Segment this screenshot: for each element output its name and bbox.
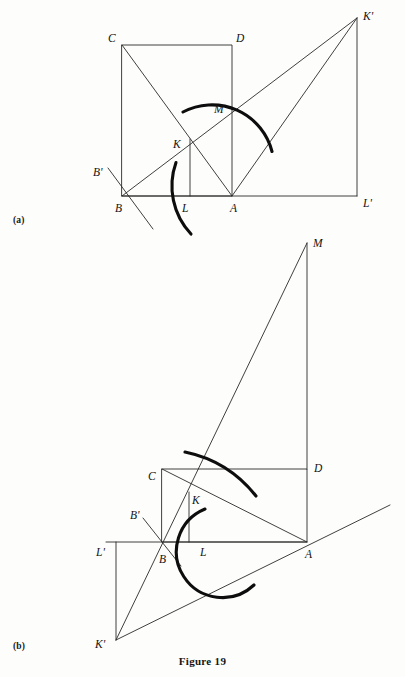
geometry-figure-svg: C D B A K L M B' K' L' (0, 0, 405, 677)
panel-b-label-lprime: L' (95, 546, 105, 558)
panel-b-label-kprime: K' (94, 638, 106, 650)
panel-a-label-m: M (213, 103, 225, 115)
panel-b-line-kprime-a-extended (116, 505, 390, 640)
panel-a-label-c: C (108, 32, 116, 44)
panel-a-label-l: L (181, 202, 188, 214)
panel-a-group: C D B A K L M B' K' L' (93, 10, 374, 234)
panel-a-label-b: B (115, 202, 122, 214)
panel-a-label-d: D (235, 32, 245, 44)
panel-a-line-a-kprime (232, 18, 357, 196)
panel-a-label-kprime: K' (362, 10, 374, 22)
panel-b-label-k: K (191, 494, 201, 506)
panel-b-label-m: M (312, 237, 324, 249)
panel-b-label-l: L (199, 546, 206, 558)
panel-a-diagonal-c-a (122, 45, 232, 196)
panel-b-label-a: A (304, 548, 313, 560)
panel-a-label-bprime: B' (93, 166, 103, 178)
panel-b-tag: (b) (13, 641, 25, 651)
panel-b-label-b: B (159, 553, 166, 565)
panel-a-label-a: A (229, 202, 238, 214)
panel-a-arc-through-l (172, 163, 191, 235)
panel-a-label-k: K (172, 138, 182, 150)
panel-b-label-bprime: B' (130, 509, 140, 521)
panel-b-label-d: D (313, 462, 323, 474)
panel-a-label-lprime: L' (362, 197, 372, 209)
panel-b-diagonal-c-a (162, 469, 307, 542)
figure-page: C D B A K L M B' K' L' (0, 0, 405, 677)
panel-a-tag: (a) (13, 215, 25, 225)
panel-b-label-c: C (148, 470, 156, 482)
panel-b-arc-through-l (176, 509, 254, 598)
figure-caption: Figure 19 (0, 655, 405, 667)
panel-a-arc-through-k (183, 105, 272, 152)
panel-b-group: C D B A K L M B' K' L' (94, 237, 390, 650)
panel-b-ray-kprime-m (116, 243, 307, 640)
